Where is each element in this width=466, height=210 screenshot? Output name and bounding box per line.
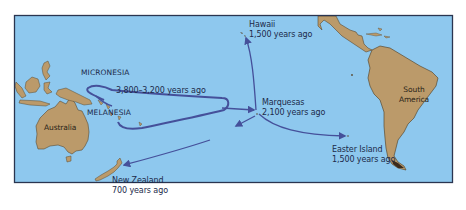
land-label-australia: Australia <box>44 123 76 133</box>
easter-island-dot <box>347 135 349 137</box>
tasmania-landmass <box>66 156 71 162</box>
label-core-timespan: 3,800–3,200 years ago <box>116 86 206 96</box>
label-hawaii: Hawaii 1,500 years ago <box>249 20 312 39</box>
new-zealand-time: 700 years ago <box>112 186 168 196</box>
region-label-melanesia: MELANESIA <box>87 108 131 118</box>
easter-island-place: Easter Island <box>332 145 395 155</box>
label-easter-island: Easter Island 1,500 years ago <box>332 145 395 164</box>
south-america-line1: South <box>394 85 434 95</box>
marquesas-place: Marquesas <box>262 98 325 108</box>
new-zealand-place: New Zealand <box>112 176 168 186</box>
marquesas-time: 2,100 years ago <box>262 108 325 118</box>
hawaii-time: 1,500 years ago <box>249 30 312 40</box>
galapagos-dot <box>351 74 353 76</box>
region-label-micronesia: MICRONESIA <box>81 68 130 78</box>
label-new-zealand: New Zealand 700 years ago <box>112 176 168 195</box>
south-america-line2: America <box>394 95 434 105</box>
pacific-migration-map <box>0 0 466 210</box>
easter-island-time: 1,500 years ago <box>332 155 395 165</box>
hawaii-place: Hawaii <box>249 20 312 30</box>
label-marquesas: Marquesas 2,100 years ago <box>262 98 325 117</box>
marquesas-dot <box>256 113 258 115</box>
land-label-south-america: South America <box>394 85 434 104</box>
